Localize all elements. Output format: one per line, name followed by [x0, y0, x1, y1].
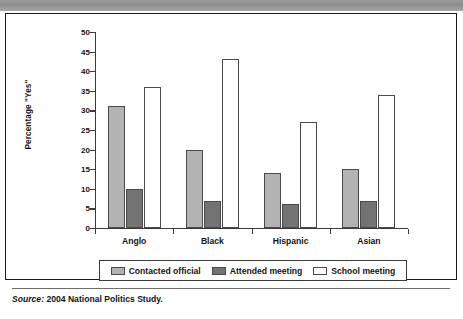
x-axis-category-label: Anglo [122, 236, 146, 246]
y-axis-tick-labels: 05101520253035404550 [66, 14, 90, 281]
x-axis-tick-mark [330, 229, 331, 234]
legend-item[interactable]: Attended meeting [212, 266, 303, 276]
y-axis-tick-label: 5 [66, 204, 90, 213]
y-axis-tick-label: 15 [66, 165, 90, 174]
x-axis-category-label: Hispanic [273, 236, 309, 246]
y-axis-tick-label: 30 [66, 106, 90, 115]
y-axis-tick-label: 20 [66, 145, 90, 154]
y-axis-title: Percentage "Yes" [24, 55, 33, 175]
y-axis-tick-label: 45 [66, 47, 90, 56]
y-axis-tick-label: 35 [66, 86, 90, 95]
chart-bar [360, 201, 377, 228]
y-axis-tick-label: 10 [66, 184, 90, 193]
chart-bar [204, 201, 221, 228]
y-axis-tick-label: 25 [66, 126, 90, 135]
chart-plot-area: Percentage "Yes" 05101520253035404550 An… [6, 14, 458, 281]
source-note: Source: 2004 National Politics Study. [12, 294, 163, 304]
legend-swatch-icon [111, 267, 125, 275]
figure-page: Percentage "Yes" 05101520253035404550 An… [0, 0, 463, 319]
legend-label: School meeting [331, 266, 395, 276]
legend-label: Contacted official [129, 266, 201, 276]
y-axis-tick-label: 50 [66, 28, 90, 37]
legend-swatch-icon [212, 267, 226, 275]
x-axis-tick-mark [252, 229, 253, 234]
chart-bar [300, 122, 317, 228]
legend-item[interactable]: School meeting [313, 266, 395, 276]
x-axis-tick-mark [95, 229, 96, 234]
x-axis-category-label: Asian [357, 236, 380, 246]
legend-item[interactable]: Contacted official [111, 266, 201, 276]
x-axis-category-label: Black [201, 236, 224, 246]
chart-bar [342, 169, 359, 228]
legend-swatch-icon [313, 267, 327, 275]
x-axis-tick-mark [408, 229, 409, 234]
chart-bar [108, 106, 125, 228]
chart-bar [126, 189, 143, 228]
source-divider [12, 288, 450, 289]
source-value: 2004 National Politics Study. [46, 294, 162, 304]
figure-frame: Percentage "Yes" 05101520253035404550 An… [5, 13, 457, 280]
page-top-scan-bar [0, 0, 463, 11]
y-axis-line [95, 32, 96, 229]
chart-bar [144, 87, 161, 228]
chart-bar [378, 95, 395, 228]
chart-bar [282, 204, 299, 228]
chart-bar [264, 173, 281, 228]
chart-bar [222, 59, 239, 228]
x-axis-tick-mark [173, 229, 174, 234]
y-axis-tick-label: 0 [66, 224, 90, 233]
chart-bar [186, 150, 203, 228]
y-axis-tick-label: 40 [66, 67, 90, 76]
source-label: Source: [12, 294, 44, 304]
chart-legend: Contacted officialAttended meetingSchool… [99, 260, 407, 281]
legend-label: Attended meeting [230, 266, 303, 276]
